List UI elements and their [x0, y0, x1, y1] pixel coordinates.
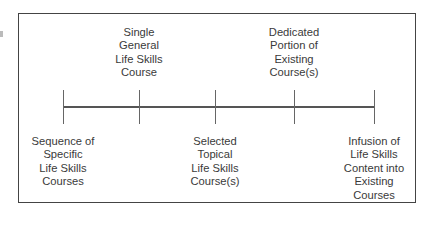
- tick-4: [294, 90, 295, 124]
- label-single-general-course: Single General Life Skills Course: [84, 26, 194, 80]
- tick-5: [374, 90, 375, 124]
- tick-1: [63, 90, 64, 124]
- label-sequence-of-specific-courses: Sequence of Specific Life Skills Courses: [8, 135, 118, 189]
- label-selected-topical-courses: Selected Topical Life Skills Course(s): [160, 135, 270, 189]
- tick-3: [215, 90, 216, 124]
- cropped-edge-mark: [0, 31, 3, 37]
- label-infusion-of-content: Infusion of Life Skills Content into Exi…: [319, 135, 429, 202]
- tick-2: [139, 90, 140, 124]
- label-dedicated-portion: Dedicated Portion of Existing Course(s): [239, 26, 349, 80]
- continuum-line: [63, 106, 374, 108]
